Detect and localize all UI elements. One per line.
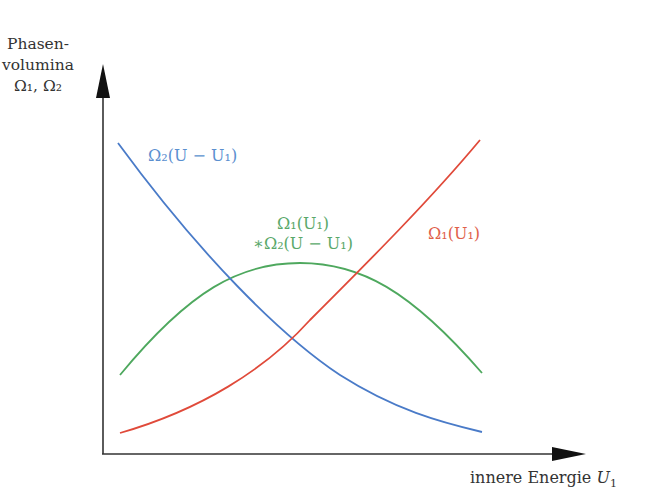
x-axis-arrow-icon	[552, 447, 586, 461]
curve-omega2	[118, 143, 482, 432]
label-product: Ω₁(U₁) ∗Ω₂(U − U₁)	[228, 214, 378, 254]
curve-product	[120, 263, 482, 375]
curve-omega1	[120, 140, 480, 433]
x-axis-label: innere Energie U1	[470, 468, 617, 494]
x-axis-label-var: U	[596, 468, 609, 487]
y-axis-label-line1: Phasen-	[0, 34, 76, 55]
label-omega2: Ω₂(U − U₁)	[148, 146, 237, 166]
y-axis-label-line3: Ω₁, Ω₂	[0, 76, 76, 97]
x-axis-label-sub: 1	[610, 477, 617, 490]
y-axis-label: Phasen- volumina Ω₁, Ω₂	[0, 34, 76, 97]
x-axis-label-text: innere Energie	[470, 468, 596, 487]
label-omega1: Ω₁(U₁)	[428, 224, 480, 244]
label-product-line2: ∗Ω₂(U − U₁)	[228, 234, 378, 254]
y-axis-label-line2: volumina	[0, 55, 76, 76]
y-axis-arrow-icon	[96, 64, 110, 98]
label-product-line1: Ω₁(U₁)	[228, 214, 378, 234]
